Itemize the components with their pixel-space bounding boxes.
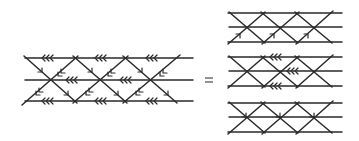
rhs-strip-3	[228, 101, 342, 134]
rhs-strip-2	[228, 54, 342, 89]
lhs-strip	[22, 55, 193, 105]
equals-sign	[205, 78, 213, 82]
diagram-canvas	[0, 0, 359, 141]
rhs-strip-1	[228, 11, 342, 44]
